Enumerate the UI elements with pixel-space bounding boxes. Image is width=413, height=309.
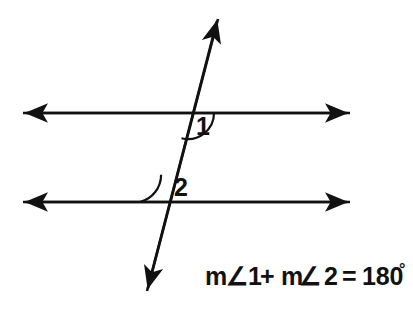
angle-1-label: 1 (196, 112, 210, 140)
equation-angle-symbol-1: ∠ (226, 262, 248, 290)
equation-plus: + (260, 262, 274, 290)
equation-two: 2 (324, 262, 338, 290)
equation-angle-symbol-2: ∠ (299, 262, 321, 290)
equation-m1: m (205, 262, 227, 290)
angle-2-arc (140, 175, 161, 202)
equation-degree-symbol: ° (399, 261, 405, 278)
equation-group: m ∠ 1 + m ∠ 2 = 180 ° (205, 261, 405, 290)
geometry-canvas: 1 2 m ∠ 1 + m ∠ 2 = 180 ° (0, 0, 413, 309)
geometry-figure: 1 2 m ∠ 1 + m ∠ 2 = 180 ° (0, 0, 413, 309)
angle-2-label: 2 (174, 173, 188, 201)
equation-value: 180 (362, 262, 403, 290)
equation-equals: = (342, 262, 356, 290)
transversal-line-down-arrow (148, 19, 218, 288)
